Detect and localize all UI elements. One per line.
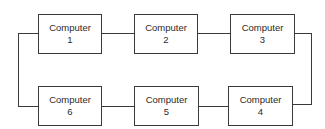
link-6-1-vertical [18, 33, 19, 107]
node-number: 2 [163, 34, 168, 46]
ring-network-diagram: Computer 1 Computer 2 Computer 3 Compute… [0, 0, 325, 129]
node-label: Computer [242, 22, 284, 34]
node-number: 6 [67, 106, 72, 118]
link-4-5 [199, 106, 228, 107]
computer-node-4: Computer 4 [228, 86, 293, 126]
link-1-2 [102, 33, 134, 34]
computer-node-2: Computer 2 [134, 14, 198, 54]
link-2-3 [198, 33, 230, 34]
node-label: Computer [240, 94, 282, 106]
node-label: Computer [146, 94, 188, 106]
link-6-1-bottom [18, 106, 38, 107]
node-number: 1 [67, 34, 72, 46]
node-label: Computer [49, 94, 91, 106]
computer-node-1: Computer 1 [38, 14, 102, 54]
node-number: 5 [164, 106, 169, 118]
node-label: Computer [145, 22, 187, 34]
computer-node-3: Computer 3 [230, 14, 295, 54]
node-label: Computer [49, 22, 91, 34]
link-3-4-bottom [293, 104, 312, 105]
link-3-4-vertical [311, 33, 312, 105]
link-5-6 [102, 106, 134, 107]
computer-node-6: Computer 6 [38, 86, 102, 126]
node-number: 4 [258, 106, 263, 118]
node-number: 3 [260, 34, 265, 46]
link-6-1-top [18, 33, 38, 34]
link-3-4-top [295, 33, 312, 34]
computer-node-5: Computer 5 [134, 86, 199, 126]
